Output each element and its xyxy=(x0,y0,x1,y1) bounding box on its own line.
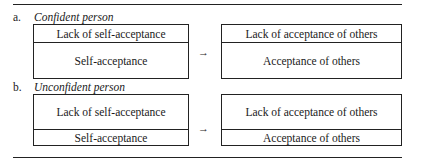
lack-acceptance-others-cell: Lack of acceptance of others xyxy=(222,95,401,129)
arrow-right-icon: → xyxy=(198,47,209,58)
section-letter: a. xyxy=(13,11,21,24)
lack-self-acceptance-cell: Lack of self-acceptance xyxy=(34,95,188,129)
self-acceptance-cell: Self-acceptance xyxy=(34,129,188,145)
section-letter: b. xyxy=(13,81,22,94)
acceptance-others-cell: Acceptance of others xyxy=(222,129,401,145)
self-acceptance-cell: Self-acceptance xyxy=(34,42,188,78)
lack-self-acceptance-cell: Lack of self-acceptance xyxy=(34,25,188,42)
self-acceptance-box: Lack of self-acceptance Self-acceptance xyxy=(33,94,189,146)
lack-acceptance-others-cell: Lack of acceptance of others xyxy=(222,25,401,42)
self-acceptance-box: Lack of self-acceptance Self-acceptance xyxy=(33,24,189,79)
acceptance-of-others-box: Lack of acceptance of others Acceptance … xyxy=(221,94,402,146)
top-rule xyxy=(13,4,402,5)
bottom-rule xyxy=(13,157,402,158)
acceptance-others-cell: Acceptance of others xyxy=(222,42,401,78)
acceptance-of-others-box: Lack of acceptance of others Acceptance … xyxy=(221,24,402,79)
section-title: Confident person xyxy=(34,11,114,24)
section-title: Unconfident person xyxy=(34,81,125,94)
arrow-right-icon: → xyxy=(198,123,209,134)
